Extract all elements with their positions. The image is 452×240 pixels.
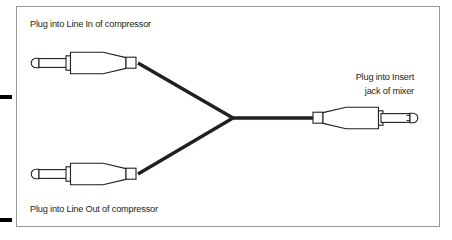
- plug-body-icon: [71, 163, 127, 185]
- crop-mark-lower-icon: [0, 218, 12, 222]
- crop-mark-upper-icon: [0, 95, 12, 99]
- plug-ring-icon: [66, 56, 71, 70]
- plug-shaft-icon: [39, 170, 68, 179]
- plug-tip-icon: [31, 58, 39, 68]
- plug-ring-icon: [66, 167, 71, 181]
- line-in-plug: [31, 52, 136, 74]
- line-out-plug: [31, 163, 136, 185]
- label-line-in: Plug into Line In of compressor: [30, 19, 151, 29]
- plug-tip-icon: [410, 113, 418, 123]
- insert-plug: [313, 107, 418, 129]
- plug-shaft-icon: [381, 114, 410, 123]
- plug-body-icon: [71, 52, 127, 74]
- insert-cable-wiring-diagram: Plug into Line In of compressor Plug int…: [0, 0, 452, 240]
- plug-body-icon: [323, 107, 379, 129]
- label-line-out: Plug into Line Out of compressor: [30, 204, 158, 214]
- plug-collar-icon: [313, 112, 323, 123]
- cable-lower-branch: [138, 118, 233, 174]
- label-insert-line1: Plug into Insert: [356, 72, 415, 82]
- cable-upper-branch: [138, 63, 233, 118]
- plug-collar-icon: [126, 168, 136, 179]
- plug-collar-icon: [126, 57, 136, 68]
- plug-shaft-icon: [39, 59, 68, 68]
- cable-group: [138, 63, 314, 174]
- crop-mark-group: [0, 95, 12, 222]
- plug-tip-icon: [31, 169, 39, 179]
- label-insert-line2: jack of mixer: [364, 86, 414, 96]
